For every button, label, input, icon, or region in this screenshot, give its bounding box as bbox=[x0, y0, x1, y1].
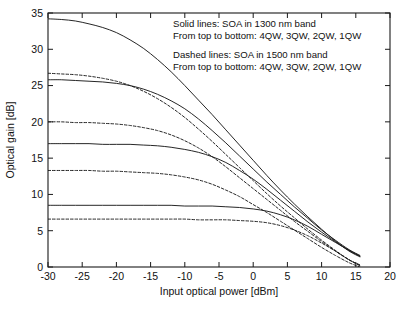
x-axis-tick-label: -5 bbox=[214, 270, 223, 282]
y-axis-tick-label: 10 bbox=[31, 188, 43, 200]
y-axis-tick-label: 35 bbox=[31, 7, 43, 19]
x-axis-tick-label: -20 bbox=[109, 270, 124, 282]
y-axis-tick-label: 15 bbox=[31, 152, 43, 164]
x-axis-tick-label: 5 bbox=[284, 270, 290, 282]
chart-annotation-2: Dashed lines: SOA in 1500 nm band bbox=[173, 49, 328, 60]
chart-figure: -30-25-20-15-10-50510152005101520253035I… bbox=[0, 0, 410, 312]
x-axis-tick-label: 0 bbox=[250, 270, 256, 282]
x-axis-tick-label: 10 bbox=[316, 270, 328, 282]
series-line-3 bbox=[48, 122, 360, 266]
y-axis-label: Optical gain [dB] bbox=[4, 101, 16, 178]
x-axis-tick-label: -25 bbox=[75, 270, 90, 282]
y-axis-tick-label: 5 bbox=[37, 225, 43, 237]
chart-canvas: -30-25-20-15-10-50510152005101520253035I… bbox=[0, 0, 410, 312]
chart-annotation-3: From top to bottom: 4QW, 3QW, 2QW, 1QW bbox=[173, 61, 362, 72]
x-axis-tick-label: -10 bbox=[177, 270, 192, 282]
x-axis-tick-label: 20 bbox=[384, 270, 396, 282]
chart-annotation-0: Solid lines: SOA in 1300 nm band bbox=[173, 18, 316, 29]
y-axis-tick-label: 0 bbox=[37, 261, 43, 273]
y-axis-tick-label: 25 bbox=[31, 79, 43, 91]
x-axis-label: Input optical power [dBm] bbox=[160, 285, 279, 297]
y-axis-tick-label: 30 bbox=[31, 43, 43, 55]
y-axis-tick-label: 20 bbox=[31, 116, 43, 128]
series-line-4 bbox=[48, 144, 360, 257]
series-line-6 bbox=[48, 205, 360, 256]
chart-annotation-1: From top to bottom: 4QW, 3QW, 2QW, 1QW bbox=[173, 30, 362, 41]
x-axis-tick-label: -15 bbox=[143, 270, 158, 282]
series-line-1 bbox=[48, 73, 360, 265]
x-axis-tick-label: 15 bbox=[350, 270, 362, 282]
